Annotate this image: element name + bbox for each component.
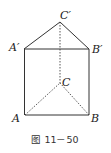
vertex-label-c: C bbox=[62, 76, 71, 89]
vertex-label-a1: A′ bbox=[8, 41, 20, 54]
prism-diagram: C′ A′ B′ C A B 图 11－50 bbox=[0, 0, 111, 153]
vertex-label-c1: C′ bbox=[60, 9, 71, 22]
vertex-label-b: B bbox=[90, 112, 99, 125]
figure-caption: 图 11－50 bbox=[31, 134, 78, 145]
edge-b1-c1 bbox=[60, 22, 89, 49]
vertex-label-a: A bbox=[11, 112, 20, 125]
hidden-edge-a-c bbox=[25, 83, 60, 115]
vertex-label-b1: B′ bbox=[91, 43, 103, 56]
edge-a1-c1 bbox=[24, 22, 60, 49]
